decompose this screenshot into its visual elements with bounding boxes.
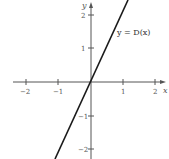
y-tick-label: −2 xyxy=(78,146,88,154)
x-axis-label: x xyxy=(163,86,168,95)
y-tick-label: 2 xyxy=(81,12,85,20)
chart: −2 −1 1 2 2 1 −1 −2 x y y = D(x) xyxy=(0,0,169,159)
y-tick-label: 1 xyxy=(81,45,85,53)
x-tick-label: 2 xyxy=(153,88,157,96)
x-tick-label: −1 xyxy=(53,88,63,96)
x-axis-arrow-icon xyxy=(160,80,166,84)
x-tick-label: 1 xyxy=(121,88,125,96)
y-axis-arrow-icon xyxy=(89,2,93,8)
y-tick-label: −1 xyxy=(78,113,88,121)
y-axis-label: y xyxy=(81,1,87,10)
x-tick-label: −2 xyxy=(20,88,30,96)
curve-label: y = D(x) xyxy=(116,28,150,37)
